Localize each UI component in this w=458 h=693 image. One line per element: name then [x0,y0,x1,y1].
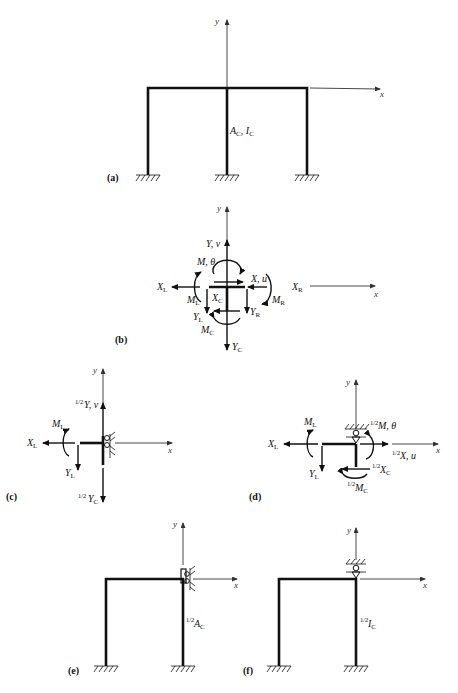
svg-text:y: y [92,365,97,375]
svg-text:x: x [435,445,440,455]
svg-text:1/2: 1/2 [78,492,86,499]
fixed-support-icon [215,175,239,181]
y-axis-label: y [216,203,221,213]
member-label: AC, IC [229,125,254,138]
svg-text:y: y [345,377,350,387]
hinge-icon [352,572,360,578]
svg-text:Y, v: Y, v [84,399,99,410]
svg-text:XR: XR [291,281,303,294]
y-axis-label: y [214,16,219,26]
svg-text:YC: YC [232,341,243,354]
panel-tag: (f) [243,665,253,677]
fixed-support-icon [267,666,291,672]
panel-d: y x 1/2 M, θ XL ML 1/2 X, u YL [249,377,440,503]
svg-text:XL: XL [26,437,37,450]
svg-text:x: x [167,445,172,455]
svg-text:x: x [422,580,427,590]
x-axis-label: x [373,289,378,299]
svg-text:YL: YL [309,468,319,481]
x-axis-label: x [379,89,384,99]
panel-tag: (d) [249,491,261,503]
svg-text:YR: YR [250,306,261,319]
svg-text:M, θ: M, θ [377,420,396,431]
fixed-support-icon [94,666,118,672]
svg-text:IC: IC [367,618,376,631]
svg-text:YC: YC [88,493,99,506]
panel-e: y x 1/2 AC (e) [68,519,238,677]
svg-text:ML: ML [51,418,65,431]
svg-text:MR: MR [271,294,285,307]
panel-tag: (b) [115,334,127,346]
roller-icon [185,572,190,577]
panel-f: y x 1/2 IC (f) [243,525,427,677]
svg-text:M, θ: M, θ [196,256,215,267]
svg-text:AC: AC [193,618,205,631]
svg-text:X, u: X, u [250,273,267,284]
fixed-support-icon [344,666,368,672]
svg-text:ML: ML [186,294,200,307]
svg-text:x: x [233,580,238,590]
x-axis [310,88,380,89]
structural-diagram: y x AC, IC (a) y x Y, v M, θ X, u XL [0,0,458,693]
panel-b: y x Y, v M, θ X, u XL ML YL XC XR MR [115,203,378,354]
roller-icon [105,443,110,448]
svg-text:1/2: 1/2 [75,398,83,405]
fixed-support-icon [136,175,160,181]
svg-text:ML: ML [303,416,317,429]
hinge-icon [352,437,360,443]
svg-text:YL: YL [193,311,203,324]
roller-icon [105,436,110,441]
svg-text:y: y [172,519,177,529]
svg-text:YL: YL [65,467,75,480]
svg-text:XL: XL [267,438,278,451]
panel-tag: (e) [68,665,79,677]
roller-icon [353,430,359,436]
panel-tag: (c) [6,491,17,503]
svg-text:XC: XC [211,292,223,305]
svg-text:MC: MC [354,482,368,495]
svg-text:X, u: X, u [399,450,416,461]
roller-icon [185,579,190,584]
svg-text:XC: XC [379,464,391,477]
svg-text:y: y [346,525,351,535]
panel-a: y x AC, IC (a) [107,16,384,184]
roller-icon [353,565,359,571]
svg-text:XL: XL [156,281,167,294]
svg-text:Y, v: Y, v [206,238,221,249]
panel-c: y x 1/2 Y, v XL ML YL 1/2 YC (c) [6,365,172,506]
svg-text:MC: MC [200,324,214,337]
fixed-support-icon [171,666,195,672]
panel-tag: (a) [107,172,119,184]
fixed-support-icon [295,175,319,181]
